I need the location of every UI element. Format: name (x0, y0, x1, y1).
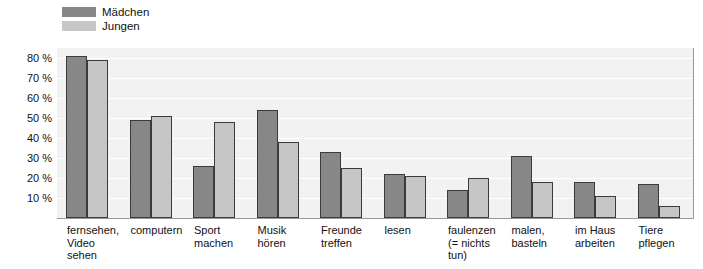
x-axis-label: Tiere pflegen (639, 224, 675, 249)
bar-maedchen (532, 182, 553, 218)
bar-group (66, 48, 108, 218)
bar-jungen (574, 182, 595, 218)
bar-jungen (447, 190, 468, 218)
y-axis-tick: 20 % (27, 173, 52, 184)
bar-group (257, 48, 299, 218)
bar-maedchen (468, 178, 489, 218)
x-axis-label: faulenzen (= nichts tun) (448, 224, 496, 262)
bar-group (193, 48, 235, 218)
x-axis-label: fernsehen, Video sehen (67, 224, 119, 262)
bar-maedchen (595, 196, 616, 218)
bar-jungen (66, 56, 87, 218)
legend-label-jungen: Jungen (102, 20, 140, 32)
bar-group (384, 48, 426, 218)
bar-group (511, 48, 553, 218)
bar-jungen (193, 166, 214, 218)
bar-maedchen (278, 142, 299, 218)
bar-maedchen (214, 122, 235, 218)
x-axis-labels: fernsehen, Video sehencomputernSport mac… (57, 224, 703, 269)
bar-maedchen (405, 176, 426, 218)
x-axis-label: malen, basteln (512, 224, 547, 249)
bar-jungen (638, 184, 659, 218)
bar-jungen (384, 174, 405, 218)
y-axis-tick: 10 % (27, 193, 52, 204)
chart-legend: Mädchen Jungen (62, 6, 149, 32)
legend-item-maedchen: Mädchen (62, 6, 149, 18)
legend-swatch-jungen (62, 21, 96, 31)
x-axis-label: im Haus arbeiten (575, 224, 615, 249)
y-axis-tick: 40 % (27, 133, 52, 144)
x-axis-label: Musik hören (258, 224, 287, 249)
legend-swatch-maedchen (62, 7, 96, 17)
bar-jungen (257, 110, 278, 218)
y-axis-tick: 50 % (27, 113, 52, 124)
bar-group (447, 48, 489, 218)
bar-group (130, 48, 172, 218)
bar-jungen (320, 152, 341, 218)
legend-item-jungen: Jungen (62, 20, 149, 32)
y-axis-tick: 70 % (27, 73, 52, 84)
bar-group (638, 48, 680, 218)
x-axis-baseline (57, 218, 694, 219)
bar-jungen (511, 156, 532, 218)
bar-maedchen (341, 168, 362, 218)
x-axis-label: Freunde treffen (321, 224, 362, 249)
bar-group (320, 48, 362, 218)
x-axis-label: lesen (385, 224, 411, 237)
bar-jungen (130, 120, 151, 218)
bar-group (574, 48, 616, 218)
x-axis-label: computern (131, 224, 183, 237)
bar-maedchen (87, 60, 108, 218)
y-axis-tick: 60 % (27, 93, 52, 104)
x-axis-label: Sport machen (194, 224, 233, 249)
legend-label-maedchen: Mädchen (102, 6, 149, 18)
y-axis-tick: 30 % (27, 153, 52, 164)
bar-maedchen (151, 116, 172, 218)
bar-plot (57, 48, 694, 218)
y-axis: 80 %70 %60 %50 %40 %30 %20 %10 % (0, 48, 52, 219)
y-axis-tick: 80 % (27, 53, 52, 64)
bar-maedchen (659, 206, 680, 218)
